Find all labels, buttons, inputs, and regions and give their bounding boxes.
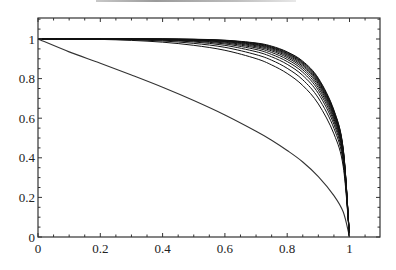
y-tick-label: 0.2 [19, 190, 35, 205]
line-chart: 00.20.40.60.81 00.20.40.60.81 [0, 0, 396, 270]
series-line-curve-9 [38, 39, 350, 237]
x-tick-label: 0.8 [279, 241, 295, 256]
series-line-curve-3 [38, 39, 350, 237]
series-line-curve-7 [38, 39, 350, 237]
plot-frame [38, 18, 380, 237]
series-line-curve-lower [38, 39, 350, 237]
chart-curves [38, 39, 350, 237]
x-tick-label: 0.6 [217, 241, 234, 256]
series-line-curve-4 [38, 39, 350, 237]
axis-ticks [38, 18, 380, 237]
x-tick-label: 0.4 [154, 241, 171, 256]
y-tick-label: 0.8 [19, 71, 35, 86]
y-tick-label: 0.4 [19, 150, 36, 165]
x-tick-label: 1 [346, 241, 353, 256]
series-line-curve-12 [38, 39, 350, 237]
series-line-curve-5 [38, 39, 350, 237]
y-tick-label: 0.6 [19, 111, 36, 126]
x-axis-tick-labels: 00.20.40.60.81 [35, 241, 353, 256]
series-line-curve-2 [38, 39, 350, 237]
series-line-curve-6 [38, 39, 350, 237]
x-tick-label: 0 [35, 241, 42, 256]
series-line-curve-11 [38, 39, 350, 237]
x-tick-label: 0.2 [92, 241, 108, 256]
y-tick-label: 0 [29, 230, 36, 245]
y-tick-label: 1 [29, 32, 36, 47]
series-line-curve-1 [38, 39, 350, 237]
y-axis-tick-labels: 00.20.40.60.81 [19, 32, 36, 245]
series-line-curve-8 [38, 39, 350, 237]
series-line-curve-10 [38, 39, 350, 237]
